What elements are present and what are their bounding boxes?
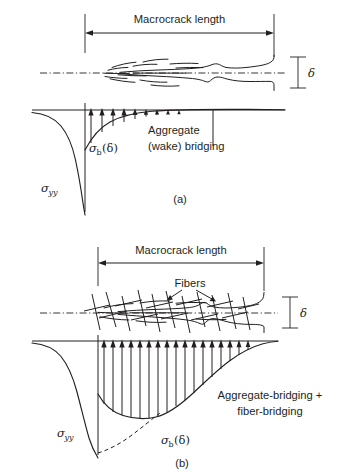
- panel-a: Macrocrack length: [32, 13, 315, 215]
- svg-text:(δ): (δ): [174, 433, 190, 447]
- panel-a-bridging-label-line2: (wake) bridging: [148, 140, 224, 152]
- bridging-arrow: [182, 340, 187, 401]
- panel-b-macrocrack-length-label: Macrocrack length: [135, 244, 226, 256]
- panel-b-fibers-leader-lines: [167, 290, 217, 302]
- panel-a-delta-label: δ: [308, 66, 315, 80]
- panel-a-caption: (a): [173, 193, 187, 205]
- panel-b-lower-crack-face: [118, 314, 264, 332]
- bridging-arrow: [146, 340, 151, 419]
- bridging-figure-svg: Macrocrack length: [0, 0, 346, 476]
- bridging-arrow: [110, 340, 115, 413]
- panel-a-macrocrack-length-label: Macrocrack length: [134, 13, 225, 25]
- svg-text:b: b: [97, 148, 102, 157]
- panel-b-delta-label: δ: [300, 306, 307, 320]
- panel-b-bridging-label-line2: fiber-bridging: [237, 405, 302, 417]
- bridging-arrow: [137, 340, 142, 419]
- bridging-arrow: [119, 340, 124, 416]
- bridging-arrow: [155, 340, 160, 417]
- bridging-arrow: [200, 340, 205, 386]
- bridging-arrow: [128, 340, 133, 418]
- bridging-arrow: [191, 340, 196, 394]
- svg-text:b: b: [169, 440, 174, 449]
- bridging-arrow: [237, 340, 242, 355]
- bridging-arrow: [164, 340, 169, 413]
- panel-b-delta-dimension: [282, 297, 298, 328]
- panel-b-bridging-label-line1: Aggregate-bridging +: [218, 389, 323, 401]
- panel-b-caption: (b): [175, 457, 189, 469]
- panel-a-sigma-yy-curve: [32, 113, 85, 216]
- panel-a-macrocrack-dimension-arrow: [85, 30, 274, 36]
- bridging-arrow: [209, 340, 214, 378]
- panel-b-macrocrack-dimension-arrow: [98, 260, 264, 266]
- panel-b-sigma-b-label: σ b (δ): [161, 433, 190, 449]
- panel-b-sigma-yy-label: σ yy: [57, 426, 74, 442]
- svg-text:yy: yy: [64, 433, 75, 442]
- svg-text:(δ): (δ): [102, 141, 118, 155]
- panel-a-sigma-b-label: σ b (δ): [89, 141, 118, 157]
- bridging-arrow: [177, 110, 180, 114]
- panel-b: Macrocrack length Fibers: [32, 244, 322, 469]
- bridging-arrow: [218, 340, 223, 370]
- bridging-arrow: [101, 340, 106, 405]
- panel-b-fibers-label: Fibers: [174, 277, 205, 289]
- panel-a-delta-dimension: [290, 57, 306, 88]
- svg-text:yy: yy: [48, 188, 59, 197]
- bridging-arrow: [173, 340, 178, 407]
- panel-b-sigma-b-dashed-leader: [98, 413, 160, 453]
- panel-a-bridging-label-line1: Aggregate: [148, 124, 200, 136]
- panel-a-sigma-yy-label: σ yy: [41, 181, 58, 197]
- bridging-arrow: [227, 340, 232, 362]
- figure-root: Macrocrack length: [0, 0, 346, 476]
- bridging-arrow: [110, 108, 115, 126]
